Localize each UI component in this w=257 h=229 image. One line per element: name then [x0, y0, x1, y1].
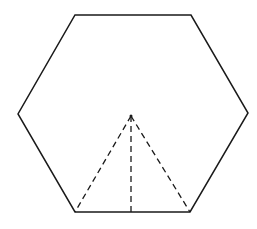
- apex-point: [130, 115, 133, 118]
- dashed-line-right: [131, 116, 190, 212]
- dashed-segments: [75, 116, 190, 212]
- hexagon-outline: [18, 15, 248, 212]
- hexagon-diagram: [0, 0, 257, 229]
- diagram-canvas: [0, 0, 257, 229]
- dashed-line-left: [75, 116, 131, 212]
